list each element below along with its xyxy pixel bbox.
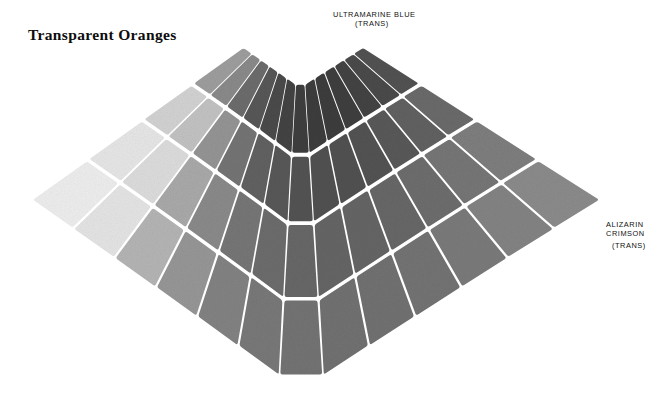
label-alizarin-crimson: ALIZARIN CRIMSON (TRANS) (606, 220, 646, 250)
page-title: Transparent Oranges (28, 26, 177, 44)
label-ultramarine-blue: ULTRAMARINE BLUE (TRANS) (333, 10, 416, 29)
label-alizarin-crimson-line1: ALIZARIN (606, 220, 644, 229)
label-ultramarine-blue-qualifier: (TRANS) (333, 19, 416, 28)
color-swatch (280, 301, 322, 375)
color-chart-plate: Transparent Oranges ULTRAMARINE BLUE (TR… (0, 0, 670, 410)
label-ultramarine-blue-name: ULTRAMARINE BLUE (333, 10, 416, 19)
color-fan-chart (0, 0, 670, 410)
label-alizarin-crimson-line2: CRIMSON (606, 229, 646, 238)
color-swatch (285, 225, 318, 297)
color-swatch (289, 157, 313, 222)
label-alizarin-crimson-qualifier: (TRANS) (606, 239, 646, 250)
